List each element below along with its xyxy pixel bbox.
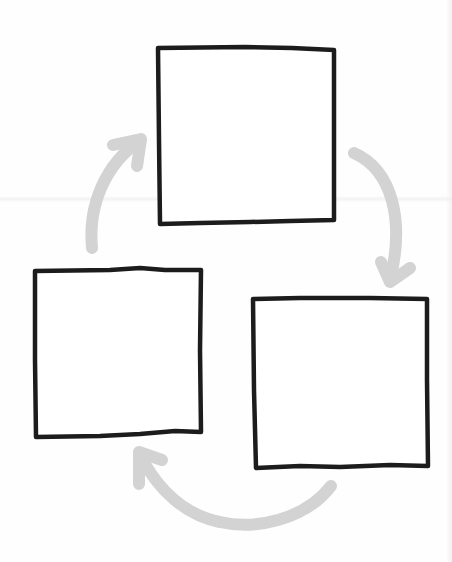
cycle-diagram	[0, 0, 452, 562]
box-right	[253, 298, 428, 468]
arrow-left-to-top	[91, 139, 141, 248]
box-left	[35, 268, 201, 437]
box-top	[158, 47, 334, 224]
diagram-canvas	[0, 0, 452, 562]
arrow-top-to-right-shaft	[354, 153, 396, 280]
arrow-top-to-right	[354, 153, 410, 282]
